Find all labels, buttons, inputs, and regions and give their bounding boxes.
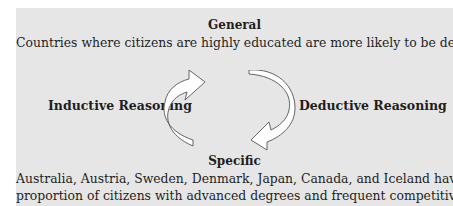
diagram-panel: General Countries where citizens are hig… bbox=[16, 8, 453, 206]
specific-heading: Specific bbox=[16, 154, 453, 168]
specific-statement-line2: proportion of citizens with advanced deg… bbox=[16, 188, 453, 203]
curved-arrow-down-icon bbox=[247, 70, 297, 152]
general-heading: General bbox=[16, 18, 453, 32]
deductive-reasoning-label: Deductive Reasoning bbox=[299, 98, 447, 113]
general-statement: Countries where citizens are highly educ… bbox=[16, 35, 453, 50]
curved-arrow-up-icon bbox=[161, 70, 211, 148]
specific-statement-line1: Australia, Austria, Sweden, Denmark, Jap… bbox=[16, 171, 453, 186]
